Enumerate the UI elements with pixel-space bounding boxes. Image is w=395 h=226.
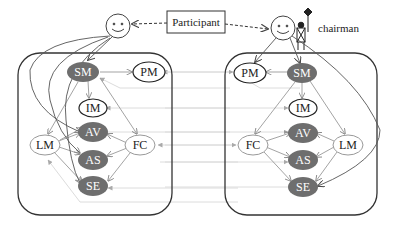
svg-text:SM: SM [293,66,311,80]
left-node-lm[interactable]: LM [30,135,60,155]
participant-face-right-icon [271,16,295,40]
right-node-se[interactable]: SE [288,177,318,197]
svg-text:SE: SE [296,180,310,194]
svg-text:LM: LM [339,138,357,152]
svg-text:SE: SE [86,179,100,193]
left-node-sm[interactable]: SM [67,62,99,82]
right-node-fc[interactable]: FC [238,135,268,155]
participant-face-left-icon [106,14,130,38]
svg-text:IM: IM [296,101,311,115]
svg-text:LM: LM [36,138,54,152]
svg-text:FC: FC [246,138,261,152]
left-node-im[interactable]: IM [79,99,107,117]
participant-box: Participant [167,11,225,33]
right-node-pm[interactable]: PM [234,63,266,83]
dashed-arrow-right [225,24,268,29]
svg-text:SM: SM [74,65,92,79]
svg-text:PM: PM [241,66,259,80]
right-node-sm[interactable]: SM [287,63,317,83]
chairman-figure-icon [297,8,312,50]
right-node-im[interactable]: IM [289,99,317,117]
left-node-as[interactable]: AS [78,150,108,170]
svg-text:PM: PM [140,65,158,79]
left-node-fc[interactable]: FC [125,135,155,155]
svg-text:IM: IM [86,101,101,115]
right-node-as[interactable]: AS [288,150,318,170]
chairman-label: chairman [318,22,359,34]
svg-text:FC: FC [133,138,148,152]
right-panel-face-curves [255,36,380,186]
right-node-av[interactable]: AV [288,123,318,143]
svg-text:AV: AV [85,125,101,139]
left-node-se[interactable]: SE [78,176,108,196]
right-node-lm[interactable]: LM [333,135,363,155]
svg-text:AS: AS [295,153,310,167]
architecture-diagram: Participant chairman [0,0,395,226]
svg-text:AV: AV [295,126,311,140]
participant-label: Participant [172,16,220,28]
dashed-arrow-left [132,23,167,24]
svg-text:AS: AS [85,153,100,167]
left-node-pm[interactable]: PM [133,62,165,82]
left-node-av[interactable]: AV [78,122,108,142]
